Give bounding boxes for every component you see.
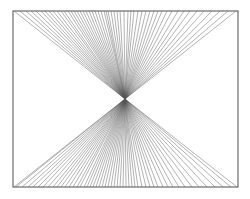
top-fan-line [31,11,125,99]
radiating-lines-diagram [0,0,250,199]
top-fan-line [125,11,184,99]
top-fan-line [41,11,125,99]
top-fan-line [86,11,125,99]
converging-lines [14,11,237,187]
top-fan-line [125,11,162,99]
top-fan-line [71,11,125,99]
top-fan-line [125,11,204,99]
bottom-fan-line [125,99,192,187]
bottom-fan-line [22,99,125,187]
bottom-fan-line [53,99,125,187]
bottom-fan-line [125,99,215,187]
bottom-fan-line [125,99,179,187]
top-fan-line [20,11,125,99]
top-fan-line [125,11,212,99]
bottom-fan-line [73,99,125,187]
bottom-fan-line [125,99,185,187]
top-fan-line [125,11,228,99]
bottom-fan-line [84,99,125,187]
bottom-fan-line [125,99,231,187]
top-fan-line [125,11,172,99]
bottom-fan-line [33,99,125,187]
